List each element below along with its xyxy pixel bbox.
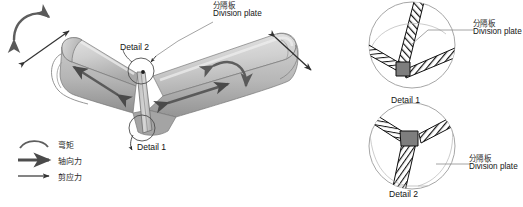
- detail-2-callout-en: Division plate: [469, 163, 518, 172]
- division-plate-callout-main: 分隔板 Division plate: [213, 2, 262, 18]
- vertex-node-dot: [141, 70, 145, 74]
- division-plate-leader-arrow: [151, 56, 156, 62]
- legend-icons: [18, 141, 49, 176]
- legend-label-bending-moment: 弯矩: [58, 139, 74, 150]
- division-plate-leader: [156, 22, 213, 56]
- detail-1-title: Detail 1: [391, 95, 420, 105]
- detail-2-callout: 分隔板 Division plate: [469, 155, 518, 171]
- bending-moment-arrow-left: [14, 13, 49, 40]
- detail-2-title: Detail 2: [389, 189, 418, 199]
- legend-label-shear-stress: 剪应力: [58, 171, 82, 182]
- detail-1-marker-label: Detail 1: [137, 142, 166, 152]
- diagram-canvas: 分隔板 Division plate Detail 2 Detail 1 弯矩 …: [0, 0, 523, 207]
- division-plate-callout-main-en: Division plate: [213, 10, 262, 19]
- curved-double-arrow-icon: [20, 141, 48, 148]
- detail-1-node: [396, 62, 410, 76]
- main-member-group: [52, 33, 298, 135]
- detail-1-callout: 分隔板 Division plate: [473, 20, 522, 36]
- detail-2-marker-label: Detail 2: [120, 42, 149, 52]
- legend-label-axial-force: 轴向力: [58, 155, 82, 166]
- detail-2-node: [400, 131, 418, 146]
- detail-1-group: [360, 0, 474, 88]
- detail-2-group: [361, 103, 470, 196]
- detail-1-callout-en: Division plate: [473, 28, 522, 37]
